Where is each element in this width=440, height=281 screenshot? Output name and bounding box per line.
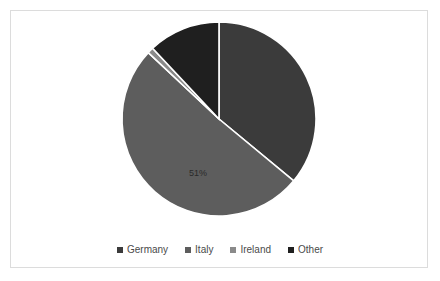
pie-chart[interactable]: 51%: [119, 19, 319, 219]
pie-data-label-group: 51%: [189, 168, 207, 178]
pie-data-label-italy: 51%: [189, 168, 207, 178]
legend-swatch-ireland: [230, 247, 236, 253]
chart-frame: 51% Germany Italy Ireland Other: [10, 10, 428, 268]
pie-chart-plot-area: 51% Germany Italy Ireland Other: [11, 11, 429, 269]
legend-item-ireland[interactable]: Ireland: [230, 244, 271, 256]
legend-swatch-italy: [185, 247, 191, 253]
legend-swatch-germany: [117, 247, 123, 253]
legend-label-other: Other: [298, 244, 323, 256]
legend-item-other[interactable]: Other: [288, 244, 323, 256]
legend-swatch-other: [288, 247, 294, 253]
pie-slice-group: [122, 22, 316, 216]
legend-label-germany: Germany: [127, 244, 168, 256]
legend-item-germany[interactable]: Germany: [117, 244, 168, 256]
legend-item-italy[interactable]: Italy: [185, 244, 213, 256]
legend-label-ireland: Ireland: [240, 244, 271, 256]
legend-label-italy: Italy: [195, 244, 213, 256]
chart-legend: Germany Italy Ireland Other: [11, 239, 429, 261]
